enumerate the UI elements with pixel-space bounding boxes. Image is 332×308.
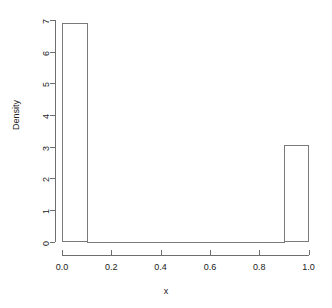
y-tick-label-5: 5 — [41, 82, 51, 100]
x-tick-0.4 — [161, 250, 162, 255]
x-tick-label-0.4: 0.4 — [146, 262, 176, 272]
y-tick-label-3: 3 — [41, 146, 51, 164]
x-tick-0.0 — [62, 250, 63, 255]
y-axis-label: Density — [11, 85, 21, 145]
x-tick-label-0.6: 0.6 — [195, 262, 225, 272]
x-axis-label: x — [0, 286, 332, 296]
x-axis-line — [62, 255, 309, 256]
histogram-bar — [136, 242, 162, 243]
x-tick-label-0.8: 0.8 — [244, 262, 274, 272]
histogram-bar — [185, 242, 211, 243]
y-tick-label-7: 7 — [41, 19, 51, 37]
x-tick-0.2 — [111, 250, 112, 255]
x-tick-label-0.2: 0.2 — [96, 262, 126, 272]
y-tick-label-6: 6 — [41, 51, 51, 69]
histogram-bar — [111, 242, 137, 243]
histogram-bar — [259, 242, 285, 243]
y-axis-line — [55, 20, 56, 242]
x-tick-label-1.0: 1.0 — [294, 262, 324, 272]
x-tick-label-0.0: 0.0 — [47, 262, 77, 272]
x-tick-0.6 — [210, 250, 211, 255]
x-tick-0.8 — [259, 250, 260, 255]
histogram-bar — [210, 242, 236, 243]
histogram-figure: 01234567 0.00.20.40.60.81.0 Density x — [0, 0, 332, 308]
y-tick-label-1: 1 — [41, 209, 51, 227]
histogram-bar — [62, 23, 88, 242]
y-tick-label-4: 4 — [41, 114, 51, 132]
y-tick-label-0: 0 — [41, 241, 51, 259]
histogram-bar — [284, 145, 310, 243]
histogram-bar — [161, 242, 187, 243]
histogram-bar — [235, 242, 261, 243]
x-tick-1.0 — [309, 250, 310, 255]
histogram-bar — [87, 242, 113, 243]
y-tick-label-2: 2 — [41, 177, 51, 195]
